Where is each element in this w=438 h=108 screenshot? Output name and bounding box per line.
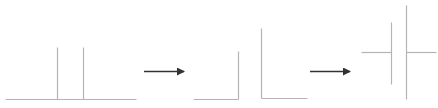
transformation-diagram (0, 0, 438, 108)
stages-layer (6, 6, 437, 100)
diagram-canvas (0, 0, 438, 108)
stage-3-capacitor-like-symbol (362, 6, 437, 100)
stage-2-two-corners (194, 29, 308, 100)
stage-1-two-posts-on-baseline (6, 48, 137, 100)
